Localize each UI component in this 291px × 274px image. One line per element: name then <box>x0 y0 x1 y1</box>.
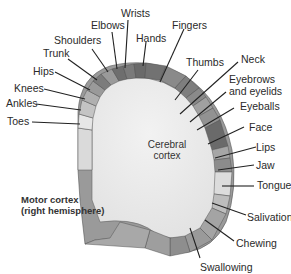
label-salivation: Salivation <box>247 212 291 223</box>
center-line2: cortex <box>153 150 180 161</box>
label-eyebrows-eyelids: Eyebrows and eyelids <box>229 74 282 97</box>
label-eyeballs: Eyeballs <box>240 101 280 112</box>
label-hips: Hips <box>33 66 54 77</box>
label-eyebrows-line1: Eyebrows <box>229 73 275 85</box>
label-fingers: Fingers <box>172 20 207 31</box>
label-thumbs: Thumbs <box>186 57 224 68</box>
motor-cortex-diagram: Toes Ankles Knees Hips Trunk Shoulders E… <box>0 0 291 274</box>
label-shoulders: Shoulders <box>54 35 101 46</box>
motor-cortex-title: Motor cortex (right hemisphere) <box>21 194 104 216</box>
title-line2: (right hemisphere) <box>21 205 104 216</box>
label-trunk: Trunk <box>43 48 69 59</box>
label-lips: Lips <box>256 142 275 153</box>
label-face: Face <box>249 122 272 133</box>
label-swallowing: Swallowing <box>200 262 253 273</box>
label-wrists: Wrists <box>121 8 150 19</box>
center-line1: Cerebral <box>148 139 186 150</box>
title-line1: Motor cortex <box>21 194 79 205</box>
label-hands: Hands <box>136 33 166 44</box>
label-tongue: Tongue <box>257 180 291 191</box>
label-knees: Knees <box>14 83 44 94</box>
label-ankles: Ankles <box>6 98 38 109</box>
label-eyebrows-line2: and eyelids <box>229 85 282 97</box>
label-chewing: Chewing <box>236 238 277 249</box>
label-elbows: Elbows <box>91 20 125 31</box>
label-neck: Neck <box>241 54 265 65</box>
label-jaw: Jaw <box>256 160 275 171</box>
cerebral-cortex-label: Cerebral cortex <box>142 139 192 161</box>
label-toes: Toes <box>7 116 29 127</box>
